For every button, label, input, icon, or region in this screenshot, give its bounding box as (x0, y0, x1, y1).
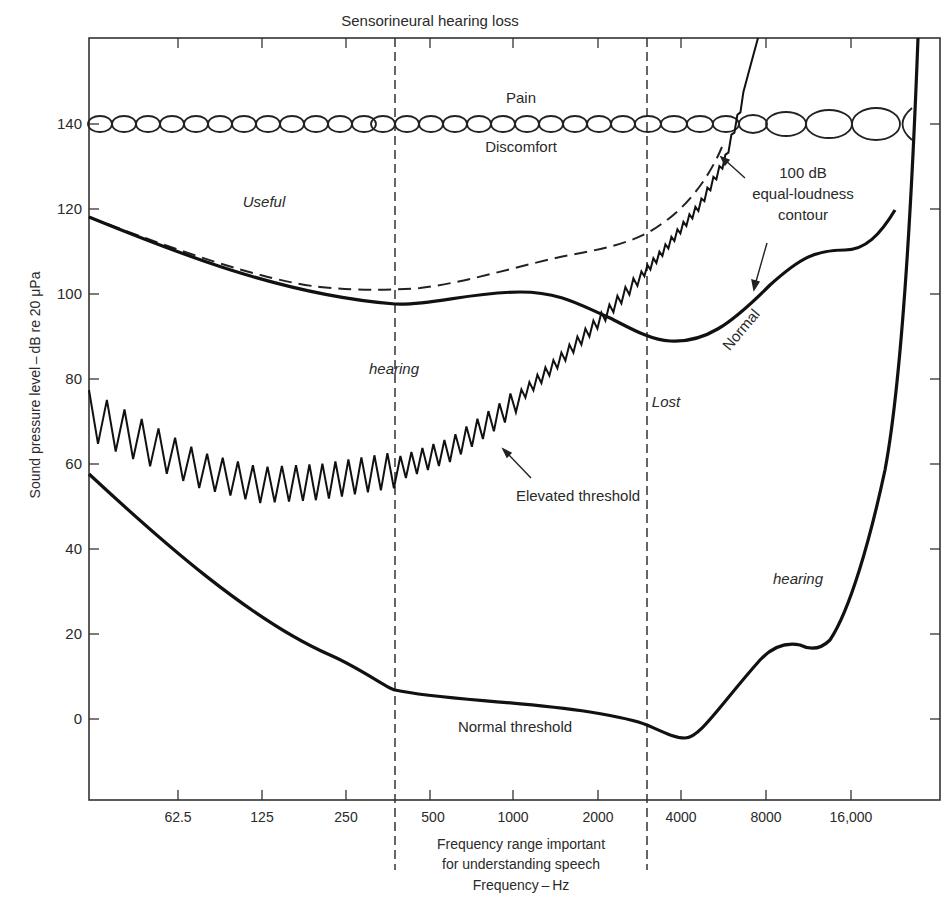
hearing-left-label: hearing (369, 360, 420, 377)
speech-range-label: Frequency range important for understand… (437, 836, 605, 893)
svg-text:140: 140 (57, 115, 82, 132)
svg-text:80: 80 (65, 370, 82, 387)
elevated-threshold-curve (89, 38, 758, 503)
svg-text:100: 100 (57, 285, 82, 302)
useful-label: Useful (243, 193, 286, 210)
svg-text:40: 40 (65, 540, 82, 557)
hearing-right-label: hearing (773, 570, 824, 587)
svg-text:120: 120 (57, 200, 82, 217)
annotation-arrows (503, 157, 767, 478)
svg-text:0: 0 (74, 710, 82, 727)
svg-text:125: 125 (250, 809, 274, 825)
pain-label: Pain (506, 89, 536, 106)
svg-text:equal-loudness: equal-loudness (752, 185, 854, 202)
svg-text:Frequency range important: Frequency range important (437, 836, 605, 852)
svg-text:62.5: 62.5 (164, 809, 191, 825)
x-tick-labels: 62.5 125 250 500 1000 2000 4000 8000 16,… (164, 809, 872, 825)
svg-text:500: 500 (421, 809, 445, 825)
y-tick-labels: 140 120 100 80 60 40 20 0 (57, 115, 82, 727)
speech-range-lines (395, 38, 647, 870)
svg-text:250: 250 (334, 809, 358, 825)
svg-text:20: 20 (65, 625, 82, 642)
svg-text:60: 60 (65, 455, 82, 472)
dashed-equal-loudness-curve (89, 147, 722, 290)
svg-text:100 dB: 100 dB (779, 164, 827, 181)
svg-text:4000: 4000 (665, 809, 696, 825)
svg-text:2000: 2000 (582, 809, 613, 825)
x-axis-label: Frequency – Hz (473, 877, 570, 893)
pain-discomfort-chain (88, 108, 912, 140)
svg-text:for understanding speech: for understanding speech (442, 856, 600, 872)
chart-title: Sensorineural hearing loss (341, 12, 519, 29)
svg-text:1000: 1000 (497, 809, 528, 825)
hearing-chart: Sensorineural hearing loss 140 120 100 8… (0, 0, 952, 910)
svg-text:contour: contour (778, 206, 828, 223)
normal-threshold-label: Normal threshold (458, 718, 572, 735)
lost-label: Lost (652, 393, 681, 410)
y-axis-label: Sound pressure level – dB re 20 μPa (27, 271, 43, 498)
svg-text:8000: 8000 (750, 809, 781, 825)
elevated-threshold-label: Elevated threshold (516, 487, 640, 504)
normal-equal-loudness-curve (89, 210, 895, 341)
equal-loudness-label: 100 dB equal-loudness contour (752, 164, 854, 223)
discomfort-label: Discomfort (485, 138, 558, 155)
svg-text:16,000: 16,000 (830, 809, 873, 825)
